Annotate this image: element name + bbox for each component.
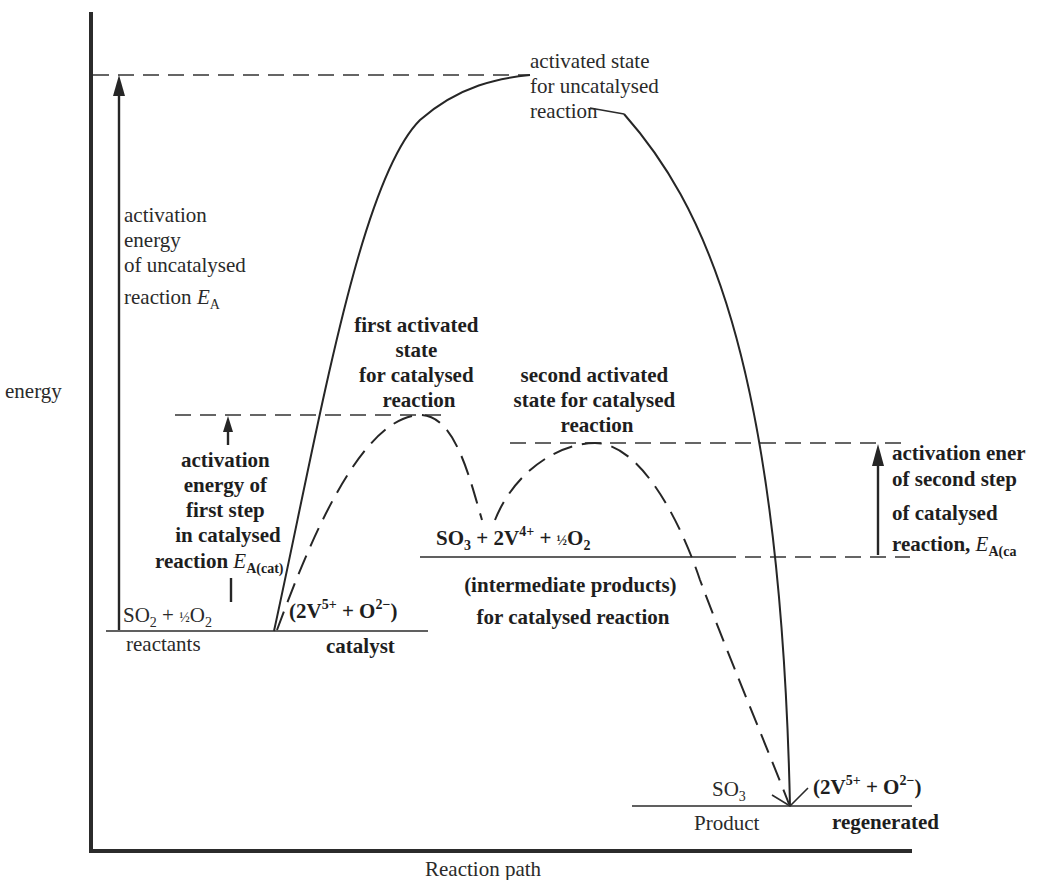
arrow-up-icon (872, 444, 884, 466)
reactants-formula: SO2 + ½O2 (123, 603, 212, 630)
arrow-up-icon (223, 416, 233, 432)
first-step-activation-symbol: reaction EA(cat) (155, 549, 284, 577)
first-peak-label: first activated state for catalysed reac… (354, 313, 483, 412)
first-step-activation-label: activation energy of first step in catal… (175, 448, 281, 547)
reactants-caption: reactants (126, 632, 201, 656)
intermediate-caption: (intermediate products) for catalysed re… (464, 573, 682, 629)
x-axis-label: Reaction path (425, 857, 542, 880)
uncatalysed-peak-label: activated state for uncatalysed reaction (530, 49, 664, 123)
product-formula: SO3 (712, 777, 746, 804)
arrow-up-icon (113, 75, 125, 96)
uncatalysed-activation-label: activation energy of uncatalysed reactio… (124, 203, 251, 312)
uncatalysed-curve-fall (624, 114, 790, 806)
energy-profile-diagram: energy Reaction path activated state for… (0, 0, 1045, 880)
intermediate-formula: SO3 + 2V4+ + ½O2 (436, 524, 590, 553)
regenerated-caption: regenerated (832, 810, 939, 834)
catalyst-caption: catalyst (326, 634, 395, 658)
product-caption: Product (694, 811, 759, 835)
catalyst-formula: (2V5+ + O2−) (289, 597, 397, 623)
regenerated-formula: (2V5+ + O2−) (813, 773, 921, 799)
second-step-activation-label: activation ener of second step of cataly… (892, 441, 1030, 560)
y-axis-label: energy (5, 379, 62, 403)
second-peak-label: second activated state for catalysed rea… (514, 363, 681, 437)
